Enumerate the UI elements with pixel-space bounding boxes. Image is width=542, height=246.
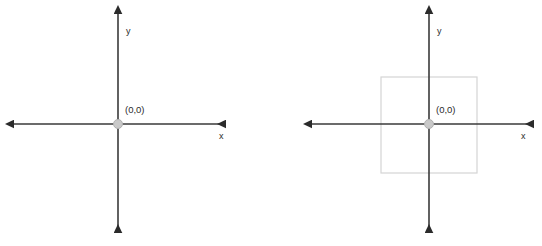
x-axis-label: x [521,131,526,141]
right-plane-svg: y x (0,0) [271,0,542,246]
origin-dot [425,120,434,129]
origin-dot [114,120,123,129]
panel-right-plane: y x (0,0) [271,0,542,246]
origin-label: (0,0) [436,104,456,115]
figure-container: y x (0,0) y x [0,0,542,246]
y-axis-label: y [437,26,442,36]
origin-label: (0,0) [125,104,145,115]
y-axis-label: y [126,26,131,36]
x-axis-label: x [219,131,224,141]
left-plane-svg: y x (0,0) [0,0,271,246]
panel-left-plane: y x (0,0) [0,0,271,246]
